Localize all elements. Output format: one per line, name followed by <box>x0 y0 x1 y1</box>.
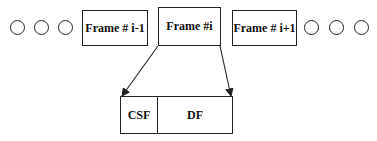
csf-field: CSF <box>120 96 158 134</box>
arrow-left <box>122 46 158 96</box>
df-field: DF <box>157 96 233 134</box>
arrow-right <box>220 46 231 96</box>
csf-label: CSF <box>128 108 151 123</box>
df-label: DF <box>187 108 203 123</box>
